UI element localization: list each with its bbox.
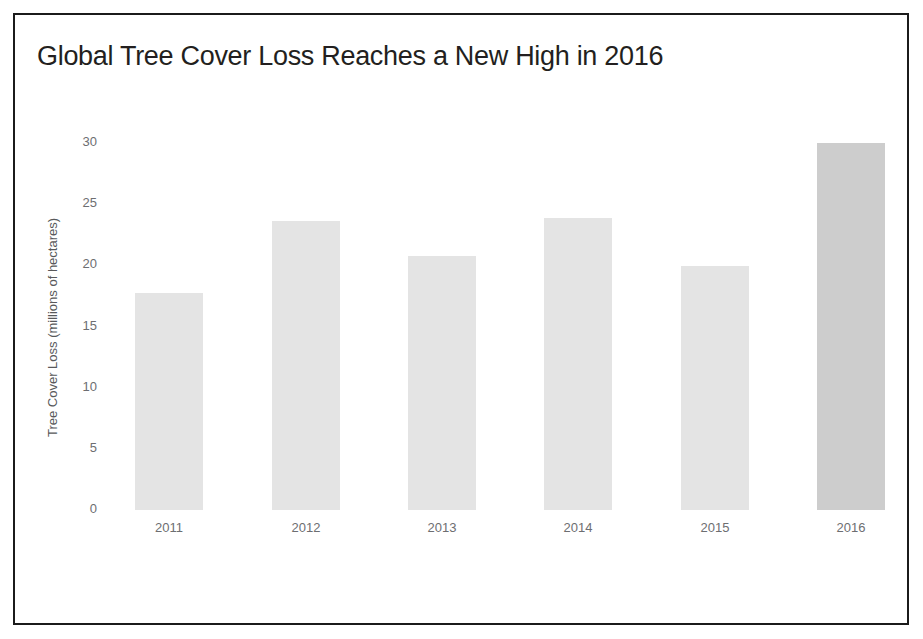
chart-page: Global Tree Cover Loss Reaches a New Hig… [0, 0, 923, 639]
y-tick-15: 15 [51, 318, 97, 333]
x-tick-2014: 2014 [518, 520, 638, 535]
x-tick-2011: 2011 [109, 520, 229, 535]
y-tick-25: 25 [51, 195, 97, 210]
x-tick-2012: 2012 [246, 520, 366, 535]
x-tick-2015: 2015 [655, 520, 775, 535]
bar-column-2012[interactable] [272, 10, 340, 510]
y-tick-0: 0 [51, 501, 97, 516]
x-tick-2016: 2016 [791, 520, 911, 535]
x-tick-2013: 2013 [382, 520, 502, 535]
y-tick-20: 20 [51, 256, 97, 271]
bar-2016[interactable] [817, 143, 885, 510]
bar-column-2011[interactable] [135, 10, 203, 510]
bar-2015[interactable] [681, 266, 749, 510]
chart-footer: GLOBAL FOREST WATCH WORLD RESOURCES INST… [15, 568, 923, 628]
y-tick-10: 10 [51, 379, 97, 394]
bar-column-2015[interactable] [681, 10, 749, 510]
bar-column-2014[interactable] [544, 10, 612, 510]
bar-2013[interactable] [408, 256, 476, 510]
chart-frame: Global Tree Cover Loss Reaches a New Hig… [13, 13, 909, 625]
bar-column-2016[interactable] [817, 10, 885, 510]
plot-area: Tree Cover Loss (millions of hectares) 3… [15, 15, 923, 639]
bar-column-2013[interactable] [408, 10, 476, 510]
bar-2012[interactable] [272, 221, 340, 510]
bar-2014[interactable] [544, 218, 612, 510]
y-tick-5: 5 [51, 440, 97, 455]
y-tick-30: 30 [51, 134, 97, 149]
bar-2011[interactable] [135, 293, 203, 510]
